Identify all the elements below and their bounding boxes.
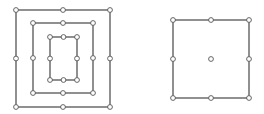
square-vertex (209, 18, 214, 23)
middle-square-vertex (91, 91, 96, 96)
middle-square-vertex (91, 56, 96, 61)
outer-square-vertex (61, 8, 66, 13)
outer-square-vertex (14, 56, 19, 61)
inner-square-vertex (48, 78, 53, 83)
outer-square-vertex (14, 8, 19, 13)
middle-square-vertex (91, 21, 96, 26)
square-vertex (247, 57, 252, 62)
middle-square-vertex (61, 21, 66, 26)
inner-square-edges (50, 37, 77, 80)
square-vertex (247, 96, 252, 101)
outer-square-vertex (108, 56, 113, 61)
square-vertex (171, 96, 176, 101)
square-vertex (209, 96, 214, 101)
diagram-canvas (0, 0, 264, 114)
isolated-center-vertex (209, 57, 214, 62)
middle-square-vertex (31, 91, 36, 96)
single-square-figure (171, 18, 252, 101)
outer-square-vertex (108, 105, 113, 110)
square-vertex (247, 18, 252, 23)
outer-square-vertex (14, 105, 19, 110)
outer-square-vertex (61, 105, 66, 110)
middle-square-vertex (31, 21, 36, 26)
inner-square-vertex (75, 35, 80, 40)
inner-square-vertex (61, 35, 66, 40)
outer-square-vertex (108, 8, 113, 13)
nested-squares-figure (14, 8, 113, 110)
inner-square-vertex (75, 56, 80, 61)
inner-square-vertex (61, 78, 66, 83)
inner-square-vertex (75, 78, 80, 83)
middle-square-vertex (31, 56, 36, 61)
square-vertex (171, 57, 176, 62)
inner-square-vertex (48, 56, 53, 61)
middle-square-vertex (61, 91, 66, 96)
inner-square-vertex (48, 35, 53, 40)
square-vertex (171, 18, 176, 23)
